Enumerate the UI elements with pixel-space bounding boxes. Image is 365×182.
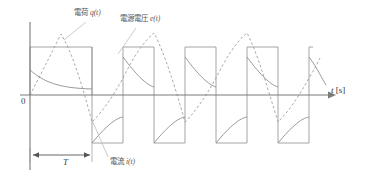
leader-voltage [118,28,136,54]
label-charge-symbol: q(t) [90,8,101,17]
label-period: T [63,158,68,167]
series-charge-dashed [30,33,320,122]
label-current-symbol: i(t) [126,157,135,166]
label-charge: 電荷 q(t) [74,9,101,17]
axis-group [20,22,336,170]
label-x-axis-variable: t [331,85,334,95]
label-current-text: 電流 [110,157,124,166]
leader-current [92,120,108,157]
period-bracket [30,143,92,162]
leader-charge [64,22,86,40]
label-origin: 0 [21,97,26,106]
label-voltage-text: 電源電圧 [120,14,148,23]
label-voltage: 電源電圧 e(t) [120,15,160,23]
leader-lines [64,22,136,157]
label-current: 電流 i(t) [110,158,135,166]
label-voltage-symbol: e(t) [150,14,160,23]
label-x-axis-unit: [s] [336,85,346,95]
waveform-figure [0,0,365,182]
label-charge-text: 電荷 [74,8,88,17]
label-x-axis: t [s] [331,86,345,95]
series-current [30,57,326,143]
